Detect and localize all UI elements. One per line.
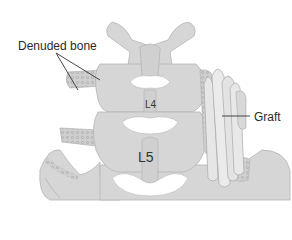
label-denuded-bone: Denuded bone [18, 40, 97, 52]
left-transverse-process-l5 [60, 128, 98, 146]
label-graft: Graft [254, 111, 281, 123]
label-vertebra-l4: L4 [145, 100, 156, 110]
label-vertebra-l5: L5 [138, 150, 154, 164]
bone-graft [204, 69, 246, 187]
